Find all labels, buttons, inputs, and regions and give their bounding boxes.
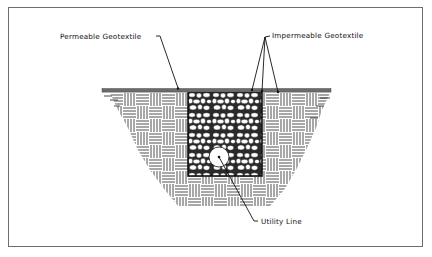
- ground-surface: [102, 89, 331, 93]
- label-permeable-geotextile: Permeable Geotextile: [60, 33, 141, 40]
- label-utility-line: Utility Line: [261, 218, 302, 225]
- label-impermeable-geotextile: Impermeable Geotextile: [272, 32, 363, 39]
